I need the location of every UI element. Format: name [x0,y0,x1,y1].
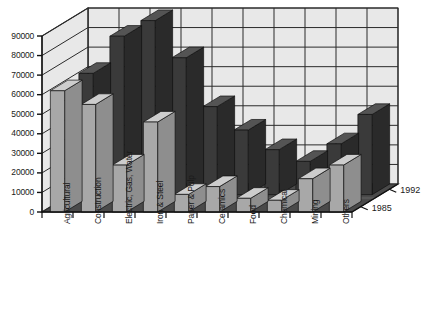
x-axis-category-label: Mining [310,200,320,224]
y-axis-tick-label: 90000 [0,31,34,41]
y-axis-tick-label: 0 [0,207,34,217]
bar-1992-others [358,104,390,195]
x-axis-category-label: Others [341,199,351,224]
y-axis-tick-label: 50000 [0,109,34,119]
x-axis-category-label: Construction [93,177,103,224]
x-axis-category-label: Food [248,205,258,224]
y-axis-tick-label: 10000 [0,187,34,197]
y-axis-tick-label: 60000 [0,89,34,99]
bar-1992-iron-steel [172,47,204,195]
depth-axis-tick [389,189,396,192]
y-axis-tick-label: 40000 [0,128,34,138]
figure-caption [0,315,424,326]
depth-axis-label-1985: 1985 [372,203,392,213]
bar-1992-food [265,139,297,195]
bar-1992-ceramics [234,119,266,194]
x-axis-category-label: Paper & Pulp [186,175,196,224]
y-axis-tick-label: 20000 [0,167,34,177]
depth-axis-label-1992: 1992 [400,185,420,195]
y-axis-tick-label: 30000 [0,148,34,158]
x-axis-category-label: Agricultural [62,183,72,224]
x-axis-category-label: Iron & Steel [155,181,165,224]
y-axis-tick-label: 70000 [0,70,34,80]
chart-figure: 0100002000030000400005000060000700008000… [0,0,424,326]
bar-chart-3d [0,0,424,326]
depth-axis-tick [361,207,368,210]
x-axis-category-label: Chemical [279,189,289,224]
x-axis-category-label: Ceramics [217,189,227,224]
y-axis-tick-label: 80000 [0,50,34,60]
x-axis-category-label: Electric, Gas, Water [124,151,134,224]
